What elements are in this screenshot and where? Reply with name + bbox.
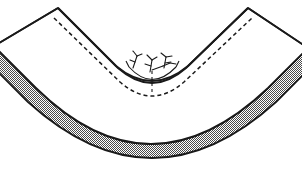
flow-marker-1 [130, 51, 142, 68]
flow-marker-2 [145, 55, 157, 72]
figure-canvas: shaded lower layer white upper layer das… [0, 0, 302, 177]
angle-arc-tick-left [126, 61, 129, 67]
inner-white-layer [0, 8, 302, 144]
chevron-band-diagram: shaded lower layer white upper layer das… [0, 0, 302, 177]
